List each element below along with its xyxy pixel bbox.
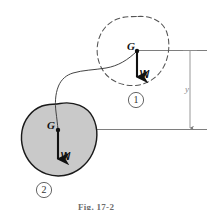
center-of-gravity-point-body-2: [56, 128, 60, 132]
figure-drawing: [0, 0, 209, 210]
figure-container: G W 1 G W 2 y Fig. 17-2: [0, 0, 209, 210]
center-of-gravity-point-body-1: [135, 49, 139, 53]
body-2-marker-circle: [36, 182, 51, 197]
body-1-marker-circle: [128, 92, 143, 107]
body-2-outline: [21, 103, 96, 176]
body-1-outline: [97, 16, 169, 85]
